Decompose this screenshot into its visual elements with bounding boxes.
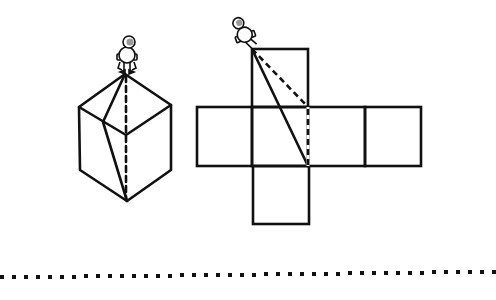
diagram-canvas [0, 0, 496, 300]
cube-solid-path [103, 74, 127, 201]
astronaut-icon [117, 36, 137, 74]
dotted-separator [0, 270, 496, 279]
astronaut-icon-tilted [229, 14, 259, 52]
cube-3d [79, 74, 171, 201]
net-face-right [308, 107, 365, 166]
net-face-front [252, 107, 308, 166]
net-face-back [365, 107, 421, 166]
net-dashed-path-diagonal [252, 49, 308, 107]
net-face-bottom [253, 166, 309, 224]
net-face-left [197, 107, 252, 166]
cube-net [197, 49, 421, 224]
